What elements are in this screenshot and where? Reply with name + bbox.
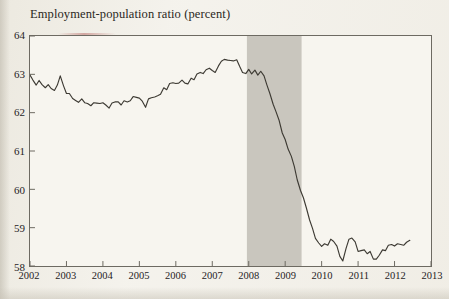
plot-area (29, 35, 432, 267)
x-tick-label: 2003 (55, 270, 76, 281)
x-tick-marks (30, 261, 431, 266)
y-tick-label: 63 (3, 68, 25, 80)
x-tick-label: 2004 (92, 270, 113, 281)
y-tick-label: 60 (3, 184, 25, 196)
x-tick-label: 2009 (275, 270, 296, 281)
chart-title: Employment-population ratio (percent) (30, 7, 230, 22)
y-tick-label: 59 (3, 222, 25, 234)
chart-plot-svg (30, 36, 431, 266)
x-tick-label: 2005 (128, 270, 149, 281)
chart-screenshot: Employment-population ratio (percent) 58… (0, 0, 449, 299)
y-tick-label: 64 (3, 29, 25, 41)
x-axis-labels: 2002200320042005200620072008200920102011… (0, 270, 449, 286)
x-tick-label: 2013 (422, 270, 443, 281)
y-tick-marks (30, 36, 35, 266)
x-tick-label: 2010 (312, 270, 333, 281)
y-tick-label: 61 (3, 145, 25, 157)
x-tick-label: 2012 (385, 270, 406, 281)
x-tick-label: 2007 (202, 270, 223, 281)
x-tick-label: 2002 (19, 270, 40, 281)
x-tick-label: 2008 (238, 270, 259, 281)
x-tick-label: 2011 (348, 270, 369, 281)
x-tick-label: 2006 (165, 270, 186, 281)
page-edge-shadow-bottom (0, 287, 449, 299)
y-axis-labels: 58596061626364 (0, 35, 25, 267)
y-tick-label: 62 (3, 106, 25, 118)
employment-population-ratio-line (30, 59, 410, 261)
